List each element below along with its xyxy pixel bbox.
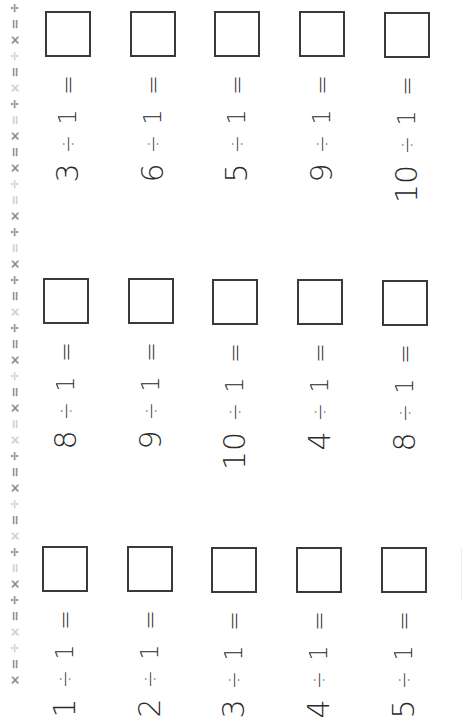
dividend: 10 <box>219 428 251 474</box>
dividend: 4 <box>303 686 335 721</box>
answer-box[interactable] <box>45 11 91 57</box>
answer-box[interactable] <box>384 12 430 58</box>
dividend: 4 <box>304 418 336 464</box>
dividend: 1 <box>49 685 81 721</box>
dividend: 2 <box>134 685 166 721</box>
answer-box[interactable] <box>382 280 428 326</box>
answer-box[interactable] <box>128 278 174 324</box>
dividend: 10 <box>391 161 423 207</box>
dividend: 5 <box>221 150 253 196</box>
multiply-symbol-icon: × <box>7 669 23 691</box>
page-edge-line <box>461 548 462 600</box>
dividend: 5 <box>388 686 420 721</box>
dividend: 3 <box>218 686 250 721</box>
answer-box[interactable] <box>211 547 257 593</box>
answer-box[interactable] <box>297 279 343 325</box>
dividend: 3 <box>52 150 84 196</box>
decorative-symbol-border: ÷=×÷=×÷=×=×÷=×÷=×÷=×÷=×÷=×=×÷=×÷=×÷=×÷=×… <box>4 0 26 703</box>
dividend: 8 <box>50 417 82 463</box>
answer-box[interactable] <box>381 547 427 593</box>
answer-box[interactable] <box>42 546 88 592</box>
answer-box[interactable] <box>212 279 258 325</box>
dividend: 9 <box>306 150 338 196</box>
answer-box[interactable] <box>127 546 173 592</box>
dividend: 8 <box>389 419 421 465</box>
answer-box[interactable] <box>43 278 89 324</box>
answer-box[interactable] <box>130 11 176 57</box>
answer-box[interactable] <box>214 11 260 57</box>
answer-box[interactable] <box>299 11 345 57</box>
dividend: 9 <box>135 417 167 463</box>
dividend: 6 <box>137 150 169 196</box>
answer-box[interactable] <box>296 547 342 593</box>
